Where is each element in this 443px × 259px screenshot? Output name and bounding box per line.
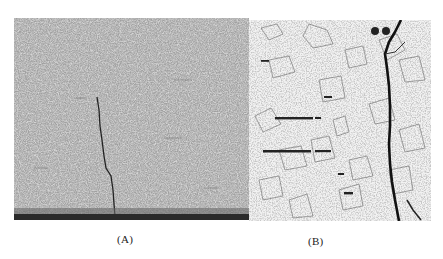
figure: (A) (B) [0, 0, 443, 259]
micrograph-a-image [14, 18, 249, 220]
panel-a-label: (A) [117, 233, 133, 245]
panel-b-label: (B) [308, 235, 324, 247]
micrograph-b [249, 20, 431, 221]
micrograph-a [14, 18, 249, 220]
micrograph-b-image [249, 20, 431, 221]
